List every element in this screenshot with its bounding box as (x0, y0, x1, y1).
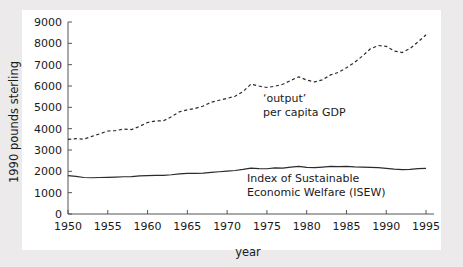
y-tick-label: 5000 (34, 101, 62, 114)
x-tick-label: 1975 (253, 220, 281, 233)
y-tick-label: 1000 (34, 187, 62, 200)
annotation-isew-label: Index of SustainableEconomic Welfare (IS… (247, 172, 386, 199)
x-tick-label: 1995 (412, 220, 440, 233)
chart-svg: 0100020003000400050006000700080009000 19… (0, 0, 463, 267)
x-axis-tick-labels: 1950195519601965197019751980198519901995 (54, 220, 440, 233)
x-tick-label: 1950 (54, 220, 82, 233)
annotation-line: per capita GDP (263, 106, 346, 119)
y-axis-tick-labels: 0100020003000400050006000700080009000 (34, 16, 62, 221)
annotation-gdp-label: ‘output’per capita GDP (263, 92, 346, 119)
x-tick-label: 1985 (332, 220, 360, 233)
y-tick-label: 2000 (34, 165, 62, 178)
y-tick-label: 7000 (34, 59, 62, 72)
y-tick-label: 8000 (34, 37, 62, 50)
series-line-gdp (68, 35, 426, 140)
x-tick-label: 1960 (134, 220, 162, 233)
y-tick-label: 4000 (34, 123, 62, 136)
y-axis-title: 1990 pounds sterling (7, 61, 21, 183)
y-tick-label: 9000 (34, 16, 62, 29)
x-tick-label: 1955 (94, 220, 122, 233)
chart-annotations: ‘output’per capita GDPIndex of Sustainab… (247, 92, 386, 199)
x-tick-label: 1990 (372, 220, 400, 233)
annotation-line: Index of Sustainable (247, 172, 359, 185)
chart-figure: 0100020003000400050006000700080009000 19… (0, 0, 463, 267)
x-tick-label: 1980 (293, 220, 321, 233)
x-axis-title: year (235, 245, 261, 259)
annotation-line: ‘output’ (263, 92, 306, 105)
x-tick-label: 1970 (213, 220, 241, 233)
y-tick-label: 3000 (34, 144, 62, 157)
x-tick-label: 1965 (173, 220, 201, 233)
annotation-line: Economic Welfare (ISEW) (247, 186, 386, 199)
y-tick-label: 6000 (34, 80, 62, 93)
